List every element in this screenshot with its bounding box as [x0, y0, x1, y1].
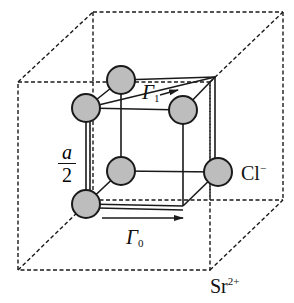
cl-atom-top-back-left	[107, 66, 135, 94]
cl-atom-top-front-left	[72, 94, 100, 122]
gamma0-subscript: 0	[138, 237, 144, 249]
chloride-ion-label: Cl−	[241, 163, 266, 183]
gamma1-label: Γ1	[142, 82, 159, 104]
lattice-half-numerator: a	[58, 142, 76, 162]
strontium-base: Sr	[210, 275, 228, 297]
cl-atom-bottom-front-left	[72, 190, 100, 218]
chloride-base: Cl	[241, 162, 260, 184]
cl-atom-top-front-right	[169, 96, 197, 124]
lattice-half-denominator: 2	[58, 165, 76, 185]
gamma1-symbol: Γ	[142, 80, 154, 104]
chloride-charge: −	[260, 162, 266, 174]
strontium-ion-label: Sr2+	[210, 276, 240, 296]
gamma0-label: Γ0	[126, 227, 143, 249]
cl-atom-bottom-front-right	[204, 158, 232, 186]
gamma0-symbol: Γ	[126, 225, 138, 249]
strontium-charge: 2+	[228, 275, 240, 287]
fluorite-unit-cell-diagram: a 2 Γ1 Γ0 Cl− Sr2+	[0, 0, 294, 303]
gamma1-subscript: 1	[154, 92, 160, 104]
lattice-half-label: a 2	[58, 142, 76, 185]
outer-cube-sr	[18, 12, 283, 270]
gamma1-arrow-icon	[160, 90, 178, 95]
cell-drawing	[0, 0, 294, 303]
cl-atom-bottom-back-left	[107, 157, 135, 185]
